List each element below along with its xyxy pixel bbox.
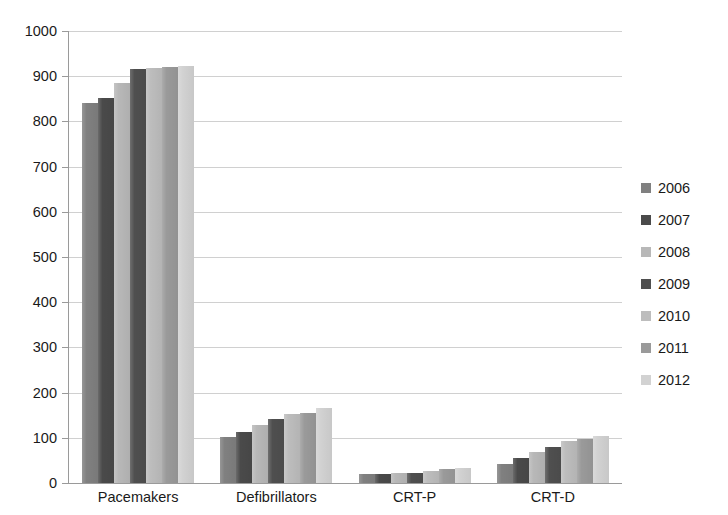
legend-label: 2009: [658, 277, 690, 292]
y-axis-labels: 01002003004005006007008009001000: [0, 0, 57, 515]
legend-label: 2006: [658, 181, 690, 196]
bar[interactable]: [220, 437, 236, 483]
plot-area: [69, 31, 622, 483]
bar-group: [484, 31, 622, 483]
bar[interactable]: [439, 469, 455, 483]
legend-item-2011[interactable]: 2011: [641, 332, 726, 364]
y-tick-mark-700: [62, 167, 68, 168]
legend-swatch-icon: [641, 343, 651, 353]
y-tick-label-100: 100: [5, 431, 57, 446]
legend-item-2008[interactable]: 2008: [641, 236, 726, 268]
bar[interactable]: [545, 447, 561, 483]
legend-label: 2007: [658, 213, 690, 228]
y-tick-label-400: 400: [5, 295, 57, 310]
y-tick-label-1000: 1000: [5, 24, 57, 39]
y-tick-mark-300: [62, 347, 68, 348]
bar[interactable]: [162, 67, 178, 483]
legend-swatch-icon: [641, 247, 651, 257]
bar[interactable]: [98, 98, 114, 483]
y-tick-label-200: 200: [5, 385, 57, 400]
y-tick-mark-600: [62, 212, 68, 213]
bar-slots: [497, 31, 609, 483]
y-tick-mark-900: [62, 76, 68, 77]
legend-item-2010[interactable]: 2010: [641, 300, 726, 332]
bar[interactable]: [529, 452, 545, 483]
legend: 2006200720082009201020112012: [641, 172, 726, 396]
legend-swatch-icon: [641, 215, 651, 225]
bar[interactable]: [316, 408, 332, 483]
bar[interactable]: [284, 414, 300, 483]
bar[interactable]: [407, 473, 423, 483]
bar[interactable]: [513, 458, 529, 483]
legend-item-2007[interactable]: 2007: [641, 204, 726, 236]
bar[interactable]: [178, 66, 194, 483]
bar-slots: [220, 31, 332, 483]
y-tick-label-300: 300: [5, 340, 57, 355]
y-tick-mark-1000: [62, 31, 68, 32]
legend-swatch-icon: [641, 311, 651, 321]
legend-swatch-icon: [641, 183, 651, 193]
y-tick-label-600: 600: [5, 205, 57, 220]
bar[interactable]: [268, 419, 284, 483]
y-tick-mark-500: [62, 257, 68, 258]
y-tick-mark-100: [62, 438, 68, 439]
y-tick-mark-400: [62, 302, 68, 303]
legend-label: 2010: [658, 309, 690, 324]
legend-item-2009[interactable]: 2009: [641, 268, 726, 300]
y-tick-label-0: 0: [5, 476, 57, 491]
bar[interactable]: [375, 474, 391, 483]
bar-groups: [69, 31, 622, 483]
legend-label: 2011: [658, 341, 689, 356]
bar[interactable]: [236, 432, 252, 483]
bar[interactable]: [82, 103, 98, 483]
bar[interactable]: [146, 68, 162, 483]
y-tick-label-900: 900: [5, 69, 57, 84]
x-axis-label-pacemakers: Pacemakers: [69, 489, 207, 506]
bar[interactable]: [455, 468, 471, 483]
bar[interactable]: [497, 464, 513, 483]
bar[interactable]: [252, 425, 268, 483]
legend-label: 2008: [658, 245, 690, 260]
y-tick-mark-200: [62, 393, 68, 394]
x-axis-category-labels: PacemakersDefibrillatorsCRT-PCRT-D: [69, 489, 622, 506]
y-tick-label-800: 800: [5, 114, 57, 129]
legend-item-2012[interactable]: 2012: [641, 364, 726, 396]
legend-label: 2012: [658, 373, 690, 388]
bar-slots: [82, 31, 194, 483]
bar-group: [346, 31, 484, 483]
legend-item-2006[interactable]: 2006: [641, 172, 726, 204]
bar[interactable]: [593, 436, 609, 483]
x-axis-label-crt-d: CRT-D: [484, 489, 622, 506]
y-tick-mark-0: [62, 483, 68, 484]
y-tick-label-500: 500: [5, 250, 57, 265]
bar[interactable]: [561, 441, 577, 483]
bar[interactable]: [423, 471, 439, 483]
bar[interactable]: [359, 474, 375, 483]
bar-chart: 01002003004005006007008009001000 Pacemak…: [0, 0, 728, 515]
legend-swatch-icon: [641, 375, 651, 385]
legend-swatch-icon: [641, 279, 651, 289]
bar-group: [207, 31, 345, 483]
bar-slots: [359, 31, 471, 483]
y-tick-label-700: 700: [5, 159, 57, 174]
gridline-0: [69, 483, 622, 484]
x-axis-label-defibrillators: Defibrillators: [207, 489, 345, 506]
bar-group: [69, 31, 207, 483]
x-axis-label-crt-p: CRT-P: [346, 489, 484, 506]
bar[interactable]: [300, 413, 316, 484]
bar[interactable]: [114, 83, 130, 483]
bar[interactable]: [130, 69, 146, 483]
y-tick-mark-800: [62, 121, 68, 122]
bar[interactable]: [391, 473, 407, 483]
bar[interactable]: [577, 439, 593, 483]
